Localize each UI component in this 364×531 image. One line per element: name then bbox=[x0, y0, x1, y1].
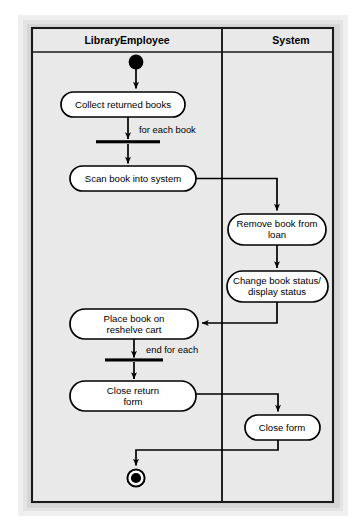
activity-place-book-on-reshelve-cart-label-line1: Place book on bbox=[104, 313, 165, 324]
activity-close-form-label: Close form bbox=[259, 422, 305, 433]
initial-node bbox=[129, 55, 144, 70]
lane-title-system: System bbox=[272, 34, 309, 46]
activity-close-return-form-label-line1: Close return bbox=[107, 385, 159, 396]
activity-close-return-form-label-line2: form bbox=[123, 396, 142, 407]
activity-scan-book-into-system-label: Scan book into system bbox=[85, 173, 182, 184]
activity-collect-returned-books-label: Collect returned books bbox=[75, 99, 171, 110]
final-node-inner-dot bbox=[131, 473, 141, 483]
activity-remove-book-from-loan-label-line1: Remove book from bbox=[236, 218, 317, 229]
activity-remove-book-from-loan-label-line2: loan bbox=[268, 229, 286, 240]
activity-place-book-on-reshelve-cart-label-line2: reshelve cart bbox=[107, 324, 162, 335]
activity-change-book-status-label-line2: display status bbox=[248, 286, 306, 297]
edge-label-end-for-each: end for each bbox=[146, 344, 198, 355]
activity-diagram-canvas: LibraryEmployee System Collect returned … bbox=[0, 0, 364, 531]
join-bar-end-for-each bbox=[105, 358, 163, 361]
activity-change-book-status-label-line1: Change book status/ bbox=[233, 275, 321, 286]
fork-bar-for-each bbox=[96, 140, 160, 143]
edge-label-for-each-book: for each book bbox=[139, 124, 196, 135]
lane-title-library-employee: LibraryEmployee bbox=[84, 34, 169, 46]
